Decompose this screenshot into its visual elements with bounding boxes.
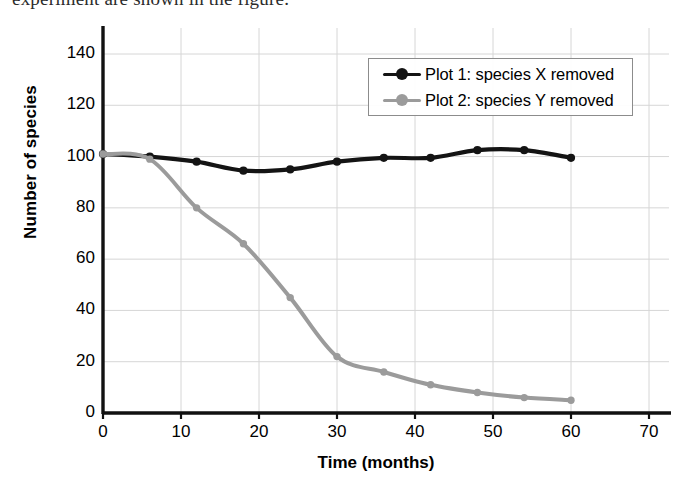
x-tick-label: 70 xyxy=(629,422,669,442)
x-tick-label: 60 xyxy=(551,422,591,442)
x-tick-label: 30 xyxy=(317,422,357,442)
y-tick-label: 140 xyxy=(37,43,95,63)
y-tick-label: 100 xyxy=(37,146,95,166)
chart-figure: Number of species Time (months) 14012010… xyxy=(0,14,673,483)
x-tick-label: 50 xyxy=(473,422,513,442)
legend-item-plot-2: Plot 2: species Y removed xyxy=(369,87,634,113)
legend-marker-line-icon-plot-1 xyxy=(379,63,425,85)
y-tick-label: 0 xyxy=(37,402,95,422)
cropped-caption-text: experiment are shown in the figure. xyxy=(0,0,673,10)
legend-label-plot-1: Plot 1: species X removed xyxy=(425,65,614,84)
chart-legend: Plot 1: species X removed Plot 2: specie… xyxy=(368,58,633,116)
legend-item-plot-1: Plot 1: species X removed xyxy=(369,61,634,87)
y-tick-label: 80 xyxy=(37,197,95,217)
y-tick-label: 20 xyxy=(37,351,95,371)
y-tick-label: 40 xyxy=(37,299,95,319)
y-tick-label: 60 xyxy=(37,248,95,268)
x-axis-label: Time (months) xyxy=(103,453,649,473)
y-tick-label: 120 xyxy=(37,94,95,114)
x-tick-label: 0 xyxy=(83,422,123,442)
x-tick-label: 10 xyxy=(161,422,201,442)
legend-label-plot-2: Plot 2: species Y removed xyxy=(425,91,614,110)
x-tick-label: 40 xyxy=(395,422,435,442)
legend-marker-line-icon-plot-2 xyxy=(379,89,425,111)
x-tick-label: 20 xyxy=(239,422,279,442)
